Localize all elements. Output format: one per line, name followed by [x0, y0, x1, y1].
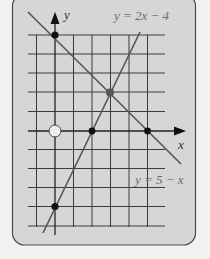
open-circle-origin [49, 125, 61, 137]
point-0-neg4 [51, 203, 58, 210]
line-label-2x-minus-4: y = 2x − 4 [112, 8, 170, 23]
x-axis-label: x [177, 137, 184, 152]
point-0-5 [51, 31, 58, 38]
point-intersection-3-2 [106, 89, 114, 97]
graph-card [13, 0, 196, 245]
coordinate-graph: x y y = 2x − 4 y = 5 − x [0, 0, 210, 259]
y-axis-label: y [62, 7, 70, 22]
point-2-0 [89, 128, 96, 135]
point-5-0 [144, 128, 151, 135]
line-label-5-minus-x: y = 5 − x [133, 172, 184, 187]
